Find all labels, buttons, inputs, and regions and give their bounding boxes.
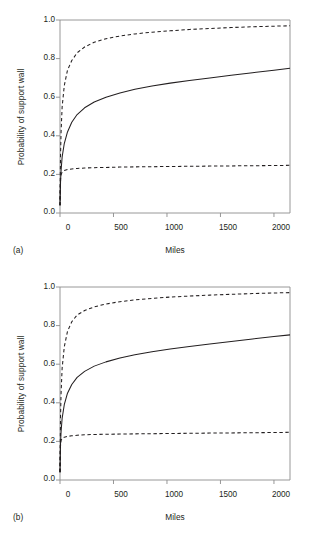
y-tick-label: 0.4 — [25, 130, 55, 139]
y-tick-label: 0.6 — [25, 359, 55, 368]
panel-b: Probability of support wall Miles (b) 1.… — [0, 267, 314, 534]
panel-tag-b: (b) — [13, 512, 23, 522]
y-tick-label: 0.4 — [25, 397, 55, 406]
x-tick-label: 500 — [101, 223, 141, 232]
y-tick-label: 0.0 — [25, 474, 55, 483]
y-tick-label: 1.0 — [25, 282, 55, 291]
panel-a: Probability of support wall Miles (a) 1.… — [0, 0, 314, 267]
x-tick-label: 1000 — [154, 223, 194, 232]
y-tick-label: 0.8 — [25, 53, 55, 62]
y-tick-label: 0.0 — [25, 207, 55, 216]
x-axis-label-a: Miles — [60, 245, 290, 255]
y-tick-label: 0.6 — [25, 92, 55, 101]
x-tick-label: 1500 — [208, 223, 248, 232]
x-tick-label: 2000 — [261, 490, 301, 499]
x-tick-label: 0 — [48, 490, 88, 499]
panel-tag-a: (a) — [13, 245, 23, 255]
x-tick-label: 500 — [101, 490, 141, 499]
figure-two-panel-probability-plots: Probability of support wall Miles (a) 1.… — [0, 0, 314, 534]
x-tick-label: 2000 — [261, 223, 301, 232]
y-tick-label: 0.2 — [25, 436, 55, 445]
x-axis-label-b: Miles — [60, 512, 290, 522]
y-tick-label: 1.0 — [25, 15, 55, 24]
y-tick-label: 0.8 — [25, 320, 55, 329]
x-tick-label: 0 — [48, 223, 88, 232]
x-tick-label: 1500 — [208, 490, 248, 499]
x-tick-label: 1000 — [154, 490, 194, 499]
y-tick-label: 0.2 — [25, 169, 55, 178]
